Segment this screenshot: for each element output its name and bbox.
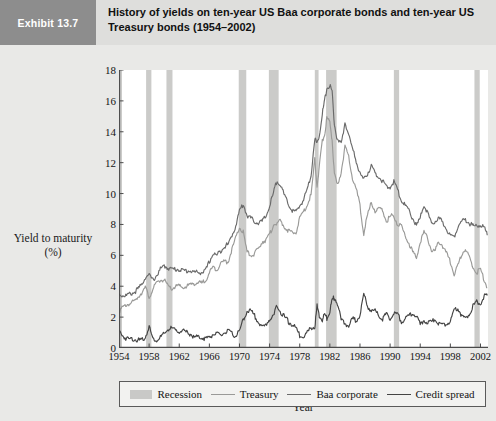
legend-label: Credit spread xyxy=(416,388,475,400)
recession-band xyxy=(166,70,172,348)
y-axis-tick-label: 18 xyxy=(90,65,116,75)
y-axis-tick-label: 2 xyxy=(90,312,116,322)
y-axis-tick-label: 4 xyxy=(90,281,116,291)
recession-band xyxy=(146,70,151,348)
exhibit-header: Exhibit 13.7 History of yields on ten-ye… xyxy=(0,0,496,45)
y-axis-tick-label: 16 xyxy=(90,96,116,106)
y-axis-title-line1: Yield to maturity xyxy=(14,232,93,244)
y-axis-tick-label: 8 xyxy=(90,219,116,229)
series-line-credit-spread xyxy=(119,293,487,342)
y-axis-tick-label: 10 xyxy=(90,189,116,199)
legend-item-treasury[interactable]: Treasury xyxy=(211,388,279,400)
y-axis-tick-label: 6 xyxy=(90,250,116,260)
exhibit-tag: Exhibit 13.7 xyxy=(0,0,96,45)
series-line-treasury xyxy=(119,117,487,314)
legend-label: Treasury xyxy=(240,388,279,400)
x-axis-tick-labels: 1954195819621966197019741978198219861990… xyxy=(0,351,496,367)
legend-line-marker xyxy=(287,394,311,395)
x-axis-tick-label: 2002 xyxy=(460,351,496,362)
page-title: History of yields on ten-year US Baa cor… xyxy=(96,0,496,45)
legend-label: Recession xyxy=(157,388,202,400)
plot-area xyxy=(119,70,488,348)
legend-label: Baa corporate xyxy=(316,388,377,400)
legend-line-marker xyxy=(211,394,235,395)
chart-canvas xyxy=(119,70,488,348)
legend-item-baa-corporate[interactable]: Baa corporate xyxy=(287,388,377,400)
legend-item-credit-spread[interactable]: Credit spread xyxy=(387,388,475,400)
chart-container: Yield to maturity (%) 024681012141618 19… xyxy=(0,45,496,421)
legend-swatch-recession xyxy=(130,390,152,399)
chart-legend: RecessionTreasuryBaa corporateCredit spr… xyxy=(119,381,486,407)
series-line-baa-corporate xyxy=(119,85,487,297)
legend-item-recession[interactable]: Recession xyxy=(130,388,202,400)
y-axis-tick-label: 14 xyxy=(90,127,116,137)
recession-band xyxy=(326,70,337,348)
y-axis-tick-labels: 024681012141618 xyxy=(88,70,116,348)
recession-band xyxy=(474,70,479,348)
y-axis-title-line2: (%) xyxy=(44,246,61,258)
y-axis-tick-label: 12 xyxy=(90,158,116,168)
recession-band xyxy=(394,70,399,348)
legend-line-marker xyxy=(387,394,411,395)
